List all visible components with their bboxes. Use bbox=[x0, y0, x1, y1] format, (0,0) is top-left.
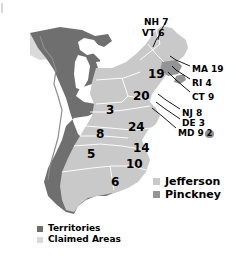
callout-text-ct: CT 9 bbox=[192, 92, 214, 102]
state-vote-label-ga: 6 bbox=[111, 176, 119, 188]
state-vote-label-tn: 5 bbox=[87, 148, 95, 160]
state-vote-label-oh: 3 bbox=[106, 104, 114, 116]
legend-candidates: Jefferson Pinckney bbox=[152, 176, 221, 202]
callout-label-nj: NJ 8 bbox=[182, 109, 226, 118]
callout-label-vt: VT 6 bbox=[142, 29, 165, 38]
legend-item-jefferson: Jefferson bbox=[152, 176, 221, 187]
legend-label-pinckney: Pinckney bbox=[165, 189, 221, 200]
legend-item-territories: Territories bbox=[36, 224, 121, 233]
callout-text-de: DE 3 bbox=[182, 118, 205, 128]
callout-label-nh: NH 7 bbox=[144, 18, 168, 27]
callout-badge-md: 2 bbox=[205, 130, 215, 138]
legend-areas: Territories Claimed Areas bbox=[36, 224, 121, 246]
callout-text-nh: NH 7 bbox=[144, 17, 168, 27]
state-vote-label-ky: 8 bbox=[96, 128, 104, 140]
legend-label-claimed-areas: Claimed Areas bbox=[48, 235, 121, 244]
leader-line-nj bbox=[158, 94, 180, 109]
callout-label-ct: CT 9 bbox=[192, 93, 236, 102]
callout-text-ma: MA 19 bbox=[192, 64, 224, 74]
callout-label-de: DE 3 bbox=[182, 119, 226, 128]
callout-label-ma: MA 19 bbox=[192, 65, 236, 74]
state-vote-label-nc: 14 bbox=[133, 142, 150, 154]
callout-text-ri: RI 4 bbox=[192, 78, 212, 88]
callout-text-md: MD 9 bbox=[178, 128, 204, 138]
legend-label-jefferson: Jefferson bbox=[165, 176, 220, 187]
state-vote-label-va: 24 bbox=[128, 121, 145, 133]
callout-label-md: MD 92 bbox=[178, 129, 222, 138]
legend-swatch-pinckney bbox=[152, 190, 161, 199]
legend-item-claimed-areas: Claimed Areas bbox=[36, 235, 121, 244]
electoral-map-figure: 19203248514106 NH 7VT 6MA 19RI 4CT 9NJ 8… bbox=[0, 0, 236, 256]
leader-line-ct bbox=[168, 72, 190, 92]
legend-item-pinckney: Pinckney bbox=[152, 189, 221, 200]
callout-text-nj: NJ 8 bbox=[182, 108, 202, 118]
state-vote-label-sc: 10 bbox=[126, 158, 143, 170]
legend-swatch-jefferson bbox=[152, 177, 161, 186]
state-vote-label-ny: 19 bbox=[148, 68, 165, 80]
callout-label-ri: RI 4 bbox=[192, 79, 236, 88]
state-vote-label-pa: 20 bbox=[133, 90, 150, 102]
legend-swatch-territories bbox=[36, 225, 44, 233]
legend-label-territories: Territories bbox=[48, 224, 100, 233]
legend-swatch-claimed-areas bbox=[36, 236, 44, 244]
callout-text-vt: VT 6 bbox=[142, 28, 165, 38]
